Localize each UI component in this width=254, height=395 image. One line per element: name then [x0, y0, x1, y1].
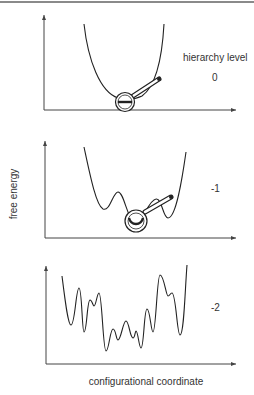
energy-curve-level-minus-2 [62, 265, 187, 351]
y-axis-label: free energy [8, 169, 19, 220]
hierarchy-level-minus-1-label: -1 [211, 183, 220, 194]
panel-level-minus-2 [46, 265, 236, 364]
hierarchy-level-minus-2-label: -2 [211, 302, 220, 313]
magnifier-icon [116, 77, 162, 112]
x-axis-label: configurational coordinate [89, 376, 204, 387]
panel-level-0 [44, 15, 236, 112]
energy-curve-level-0 [84, 24, 164, 99]
hierarchy-level-0-label: 0 [212, 72, 218, 83]
hierarchy-level-title: hierarchy level [183, 52, 247, 63]
panel-level-minus-1 [45, 141, 236, 238]
magnifier-icon [125, 195, 173, 232]
